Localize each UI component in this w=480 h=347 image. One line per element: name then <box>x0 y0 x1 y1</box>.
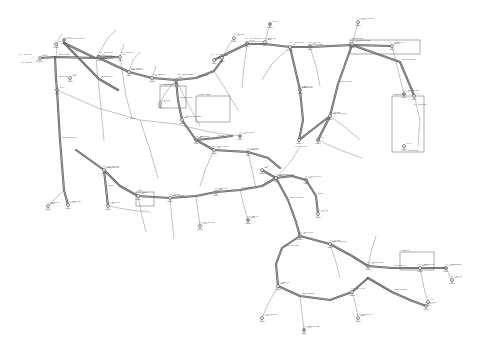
trunk-main-label: EAST PLANT TIE <box>340 80 352 82</box>
annotation-text: BEGIN <box>26 61 32 63</box>
network-diagram-canvas: EX MH RIM 104.2STA 0+00300 DIA DIINV 98.… <box>0 0 480 347</box>
node-label: MH-49 <box>306 327 311 328</box>
trunk-main-label: SOUTH HEADER <box>172 194 185 196</box>
node-label: MH-42 <box>422 265 427 266</box>
annotation-text: TWL 112.0 <box>418 103 427 105</box>
trunk-main-label: SOUTH LOOP EAST <box>332 240 347 242</box>
node-symbol[interactable] <box>351 291 354 294</box>
node-symbol[interactable] <box>264 41 267 44</box>
node-symbol[interactable] <box>39 57 42 60</box>
node-symbol[interactable] <box>261 169 264 172</box>
node-label: V-66 <box>430 299 433 300</box>
node-label: J-38 <box>280 283 283 284</box>
trunk-main-label: WEST HEADER <box>58 53 70 55</box>
trunk-main-label: EAST RETURN <box>302 86 314 88</box>
trunk-main-label: SOUTH LOOP WEST <box>284 245 299 246</box>
frame-label: PUMP HOUSE <box>162 84 172 85</box>
node-symbol[interactable] <box>213 149 216 152</box>
node-label: J-30 <box>264 167 267 168</box>
node-symbol[interactable] <box>233 37 236 40</box>
node-symbol[interactable] <box>151 77 154 80</box>
node-symbol[interactable] <box>357 317 360 320</box>
annotation-text: CONTROL BLDG <box>356 39 371 41</box>
annotation-text: AIR VALVE <box>244 131 254 133</box>
node-symbol[interactable] <box>425 305 428 308</box>
node-label: V-03 <box>236 35 239 36</box>
node-label: J-45 <box>110 203 113 204</box>
node-symbol[interactable] <box>403 145 406 148</box>
trunk-main-label: SPUR B <box>218 135 224 136</box>
node-symbol[interactable] <box>199 225 202 228</box>
node-symbol[interactable] <box>67 204 70 207</box>
node-label: MH-59 <box>454 277 459 278</box>
annotation-text: 150 DIA <box>130 117 137 119</box>
trunk-main-label: EAST HEADER <box>312 43 324 45</box>
node-symbol[interactable] <box>128 71 131 74</box>
frame-label: SUMP <box>138 190 143 191</box>
node-symbol[interactable] <box>69 77 72 80</box>
node-label: MH-36 <box>70 202 75 203</box>
annotation-text: VALVE CHAMBER <box>186 115 202 117</box>
node-symbol[interactable] <box>55 43 58 46</box>
node-label: V-40 <box>416 93 419 94</box>
node-symbol[interactable] <box>277 285 280 288</box>
node-symbol[interactable] <box>137 195 140 198</box>
node-symbol[interactable] <box>357 21 360 24</box>
node-label: MH-44 <box>428 303 433 304</box>
node-symbol[interactable] <box>275 177 278 180</box>
annotation-text: MH RIM 101.8 <box>250 37 262 39</box>
node-symbol[interactable] <box>159 103 162 106</box>
node-symbol[interactable] <box>391 45 394 48</box>
node-label: V-51 <box>320 211 323 212</box>
annotation-text: 200 DIA PVC <box>218 145 229 147</box>
node-symbol[interactable] <box>289 46 292 49</box>
node-label: J-05 <box>122 54 125 55</box>
node-symbol[interactable] <box>451 279 454 282</box>
node-label: J-25 <box>320 137 323 138</box>
node-symbol[interactable] <box>329 243 332 246</box>
node-symbol[interactable] <box>103 169 106 172</box>
node-symbol[interactable] <box>213 59 216 62</box>
node-symbol[interactable] <box>119 56 122 59</box>
trunk-main-label: SOUTH RETURN <box>302 293 315 294</box>
trunk-main-label: CENTRAL SPINE <box>180 96 192 98</box>
annotation-text: TEE 300x200 <box>182 73 193 75</box>
node-label: MH-07 <box>59 87 64 88</box>
trunk-main-label: CENTRAL JUNCTION <box>278 174 294 176</box>
annotation-text: GV 300 <box>216 53 222 55</box>
trunk-main-label: NORTH TRUNK MAIN <box>97 54 113 56</box>
node-label: MH-31 <box>308 177 313 178</box>
node-symbol[interactable] <box>298 139 301 142</box>
node-symbol[interactable] <box>169 197 172 200</box>
node-label: MH-21 <box>406 143 411 144</box>
annotation-text: OUTLET 450 <box>408 149 419 151</box>
node-label: J-41 <box>354 289 357 290</box>
node-label: J-37 <box>302 233 305 234</box>
node-symbol[interactable] <box>317 213 320 216</box>
node-label: MH-54 <box>50 203 55 204</box>
node-symbol[interactable] <box>351 43 354 46</box>
node-symbol[interactable] <box>47 205 50 208</box>
node-symbol[interactable] <box>107 205 110 208</box>
annotation-text: RESERVOIR <box>408 89 419 91</box>
node-label: V-12 <box>58 41 61 42</box>
trunk-main-label: SOUTH DIAGONAL <box>290 196 304 198</box>
trunk-main-label: UPPER EAST MAIN <box>249 40 264 42</box>
node-label: MH-53 <box>360 19 365 20</box>
node-label: MH-02 <box>42 55 47 56</box>
node-symbol[interactable] <box>329 115 332 118</box>
node-symbol[interactable] <box>221 57 224 60</box>
annotation-text: STA 0+00 <box>24 53 32 55</box>
node-symbol[interactable] <box>181 119 184 122</box>
node-symbol[interactable] <box>261 317 264 320</box>
node-symbol[interactable] <box>413 95 416 98</box>
trunk-main-label: SPUR C <box>108 185 115 186</box>
node-label: MH-58 <box>250 217 255 218</box>
node-label: J-46 <box>198 137 201 138</box>
trunk-main-label: EAST OUTFALL <box>394 264 405 266</box>
trunk-main-label: NORTHEAST LOOP <box>402 58 416 60</box>
node-symbol[interactable] <box>419 267 422 270</box>
node-label: J-09 <box>154 75 157 76</box>
node-label: J-32 <box>140 193 143 194</box>
annotation-text: 400 DIA STL <box>294 41 304 43</box>
